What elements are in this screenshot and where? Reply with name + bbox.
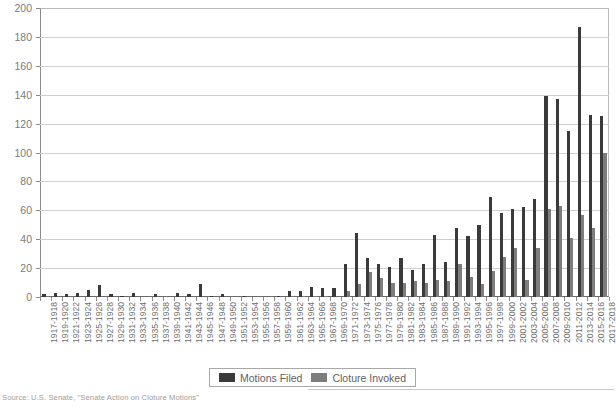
x-axis-tick-label: 1955-1956 [261,302,271,343]
bar-group [397,8,408,297]
bar-group [430,8,441,297]
x-axis-tick-mark [453,297,454,301]
x-axis-tick-label: 1995-1996 [484,302,494,343]
source-caption: Source: U.S. Senate, "Senate Action on C… [2,393,199,402]
legend-label: Cloture Invoked [332,372,406,384]
chart-legend: Motions Filed Cloture Invoked [209,368,416,387]
legend-swatch-icon [219,373,235,382]
x-axis-tick-mark [219,297,220,301]
bar-group [497,8,508,297]
x-axis-tick-mark [241,297,242,301]
x-axis-tick-mark [319,297,320,301]
bar-group [386,8,397,297]
x-axis-tick-mark [430,297,431,301]
x-axis-tick-label: 1985-1986 [429,302,439,343]
y-axis-tick-label: 200 [14,2,32,14]
x-axis-tick-label: 2011-2012 [574,302,584,342]
x-axis-tick-label: 1979-1980 [395,302,405,343]
x-axis-tick-label: 1989-1990 [451,302,461,343]
x-axis-tick-mark [553,297,554,301]
bar-group [96,8,107,297]
x-axis-tick-mark [207,297,208,301]
x-axis-tick-mark [85,297,86,301]
x-axis-tick-mark [140,297,141,301]
x-axis-tick-label: 1975-1976 [373,302,383,343]
x-axis-tick-mark [542,297,543,301]
bar-cloture-invoked [436,280,439,297]
x-axis-tick-mark [587,297,588,301]
bar-cloture-invoked [447,281,450,297]
bar-motions-filed [332,288,335,297]
x-axis-tick-mark [609,297,610,301]
x-axis-tick-label: 2007-2008 [551,302,561,343]
x-axis-tick-mark [408,297,409,301]
bar-group [62,8,73,297]
x-axis-tick-mark [598,297,599,301]
x-axis-tick-label: 1927-1928 [105,302,115,343]
legend-item-cloture-invoked: Cloture Invoked [311,372,406,384]
x-axis-tick-label: 1963-1964 [306,302,316,343]
bar-group [475,8,486,297]
x-axis-tick-label: 1929-1930 [116,302,126,343]
bar-cloture-invoked [481,284,484,297]
bar-group [40,8,51,297]
x-axis-tick-label: 2001-2002 [518,302,528,343]
bar-cloture-invoked [380,278,383,297]
x-axis-tick-mark [152,297,153,301]
x-axis-tick-label: 1923-1924 [83,302,93,343]
bar-group [285,8,296,297]
bar-motions-filed [98,285,101,297]
bar-group [408,8,419,297]
y-axis-tick-label: 0 [26,291,32,303]
bar-group [319,8,330,297]
bar-group [308,8,319,297]
x-axis-tick-label: 1983-1984 [417,302,427,343]
bar-cloture-invoked [470,277,473,297]
bar-group [330,8,341,297]
x-axis-tick-mark [118,297,119,301]
x-axis-labels: 1917-19181919-19201921-19221923-19241925… [40,302,609,360]
bar-group [576,8,587,297]
x-axis-tick-mark [107,297,108,301]
x-axis-tick-label: 1945-1946 [205,302,215,343]
bar-group [118,8,129,297]
x-axis-tick-mark [464,297,465,301]
x-axis-tick-label: 1991-1992 [462,302,472,343]
x-axis-tick-mark [364,297,365,301]
legend-item-motions-filed: Motions Filed [219,372,302,384]
x-axis-tick-mark [174,297,175,301]
bar-cloture-invoked [369,272,372,297]
bar-cloture-invoked [570,238,573,297]
bar-group [509,8,520,297]
x-axis-tick-mark [252,297,253,301]
bar-group [207,8,218,297]
y-axis-tick-label: 20 [20,262,32,274]
x-axis-tick-mark [397,297,398,301]
bar-group [174,8,185,297]
x-axis-tick-mark [330,297,331,301]
bar-cloture-invoked [492,271,495,297]
bar-group [129,8,140,297]
x-axis-tick-mark [509,297,510,301]
bar-cloture-invoked [391,283,394,297]
x-axis-tick-mark [129,297,130,301]
x-axis-tick-mark [297,297,298,301]
bar-cloture-invoked [414,281,417,297]
x-axis-tick-label: 1971-1972 [350,302,360,343]
bar-group [230,8,241,297]
x-axis-tick-mark [263,297,264,301]
x-axis-tick-label: 1997-1998 [495,302,505,343]
legend-swatch-icon [311,373,327,382]
y-axis: 020406080100120140160180200 [0,0,36,289]
x-axis-tick-mark [497,297,498,301]
x-axis-tick-label: 1957-1958 [272,302,282,343]
bar-group [85,8,96,297]
x-axis-tick-label: 1933-1934 [138,302,148,343]
bar-group [51,8,62,297]
x-axis-tick-mark [375,297,376,301]
x-axis-tick-label: 1925-1926 [94,302,104,343]
y-axis-tick-label: 80 [20,175,32,187]
x-axis-tick-label: 1937-1938 [161,302,171,343]
bar-group [419,8,430,297]
x-axis-tick-mark [40,297,41,301]
